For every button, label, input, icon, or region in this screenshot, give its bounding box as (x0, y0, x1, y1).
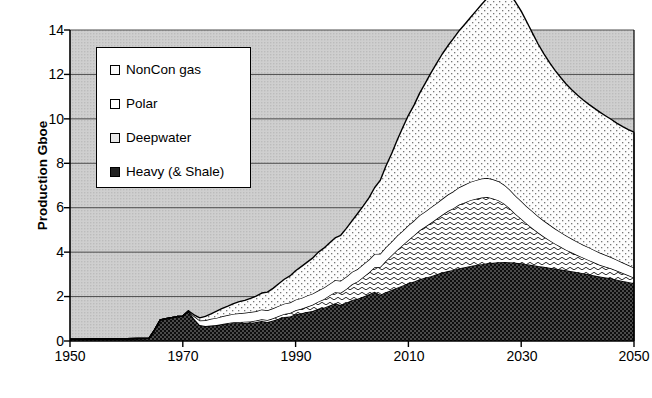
legend-swatch-deepwater (110, 133, 120, 143)
legend-swatch-noncon-gas (110, 65, 120, 75)
chart-figure: Production Gboe 14 12 10 8 6 4 2 0 1950 … (0, 0, 652, 398)
legend-label-noncon-gas: NonCon gas (126, 62, 201, 77)
legend-swatch-heavy-shale (110, 167, 120, 177)
legend-item-noncon-gas: NonCon gas (110, 62, 201, 77)
legend-swatch-polar (110, 99, 120, 109)
legend-item-heavy-shale: Heavy (& Shale) (110, 164, 224, 179)
legend-item-polar: Polar (110, 96, 158, 111)
legend-item-deepwater: Deepwater (110, 130, 191, 145)
legend-label-polar: Polar (126, 96, 158, 111)
legend-label-deepwater: Deepwater (126, 130, 191, 145)
chart-legend: NonCon gas Polar Deepwater Heavy (& Shal… (96, 47, 251, 188)
legend-label-heavy-shale: Heavy (& Shale) (126, 164, 224, 179)
